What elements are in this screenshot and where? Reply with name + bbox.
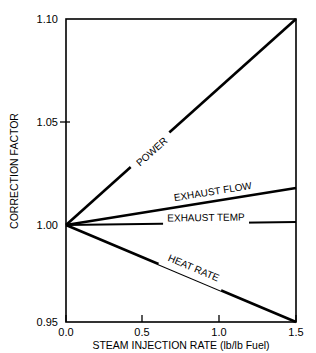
series-label-exhaust-temp-group: EXHAUST TEMP [163, 210, 249, 225]
y-tick-label-1-05: 1.05 [37, 116, 58, 128]
correction-factor-line-chart: POWER EXHAUST FLOW EXHAUST TEMP HEAT RAT… [0, 0, 316, 353]
y-tick-label-0-95: 0.95 [37, 316, 58, 328]
x-tick-label-1-5: 1.5 [288, 326, 303, 338]
chart-figure: POWER EXHAUST FLOW EXHAUST TEMP HEAT RAT… [0, 0, 316, 353]
y-axis-title: CORRECTION FACTOR [8, 113, 20, 229]
y-tick-label-1-10: 1.10 [37, 13, 58, 25]
x-tick-label-0-5: 0.5 [134, 326, 149, 338]
plot-background [66, 19, 296, 322]
x-tick-label-1-0: 1.0 [211, 326, 226, 338]
x-axis-title: STEAM INJECTION RATE (lb/lb Fuel) [92, 339, 269, 351]
x-tick-label-0-0: 0.0 [58, 326, 73, 338]
y-tick-label-1-00: 1.00 [37, 219, 58, 231]
series-label-exhaust-temp: EXHAUST TEMP [167, 212, 245, 224]
